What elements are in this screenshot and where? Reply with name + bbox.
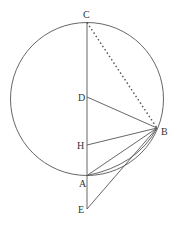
label-point-e: E xyxy=(78,204,84,215)
geometry-diagram: CDHAEB xyxy=(0,0,174,227)
segment-hb xyxy=(87,128,157,145)
label-point-a: A xyxy=(79,178,87,189)
label-point-c: C xyxy=(83,9,90,20)
label-point-d: D xyxy=(78,92,85,103)
segment-db xyxy=(87,97,157,128)
point-labels: CDHAEB xyxy=(77,9,168,215)
label-point-h: H xyxy=(77,140,84,151)
label-point-b: B xyxy=(161,126,168,137)
